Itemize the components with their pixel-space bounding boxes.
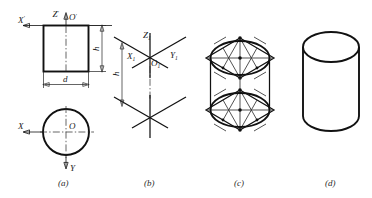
upper-centre-point-top: [238, 36, 242, 40]
lower-tangent-point-left: [222, 119, 225, 122]
upper-tangent-point-left: [222, 67, 225, 70]
o-origin-label: O: [69, 121, 76, 131]
panel-c-caption: (c): [234, 178, 244, 188]
canvas-background: [0, 0, 372, 198]
upper-centre-point-middle: [238, 56, 242, 60]
drawing-canvas: X' Z' O' h d X O Y (a: [0, 0, 372, 198]
lower-tangent-point-right: [256, 119, 259, 122]
lower-centre-point-middle: [238, 108, 242, 112]
panel-b-height-symbol: h: [111, 71, 121, 76]
panel-b-caption: (b): [144, 178, 155, 188]
lower-centre-point-bottom: [238, 128, 242, 132]
upper-ellipse-construction: [206, 36, 274, 80]
x-axis-label: X: [17, 121, 24, 131]
technical-drawing-figure: X' Z' O' h d X O Y (a: [0, 0, 372, 198]
panel-d-caption: (d): [325, 178, 336, 188]
lower-centre-point-top: [238, 88, 242, 92]
upper-tangent-point-right: [256, 67, 259, 70]
height-dimension-symbol: h: [91, 46, 101, 51]
panel-a-caption: (a): [58, 178, 69, 188]
diameter-dimension-symbol: d: [63, 74, 68, 84]
lower-ellipse-construction: [206, 88, 274, 132]
